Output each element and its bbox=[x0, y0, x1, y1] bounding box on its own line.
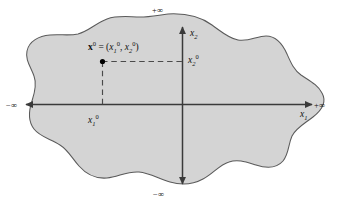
point-label: x0 = (x10, x20) bbox=[88, 41, 139, 55]
x2-axis-label: x2 bbox=[190, 29, 197, 40]
math-diagram-figure: +∞ −∞ −∞ +∞ x2 x1 x10 x20 x0 = (x10, x20… bbox=[0, 0, 340, 205]
x1-negative-infinity-label: −∞ bbox=[6, 101, 17, 110]
point-marker bbox=[100, 59, 105, 64]
x1-axis-label: x1 bbox=[300, 110, 307, 121]
x2-projection-label: x20 bbox=[188, 54, 199, 68]
diagram-canvas bbox=[0, 0, 340, 205]
x1-positive-infinity-label: +∞ bbox=[314, 101, 325, 110]
x1-projection-label: x10 bbox=[88, 114, 99, 128]
x2-positive-infinity-label: +∞ bbox=[152, 6, 163, 15]
x2-negative-infinity-label: −∞ bbox=[153, 190, 164, 199]
feasible-region-shape bbox=[27, 14, 324, 184]
